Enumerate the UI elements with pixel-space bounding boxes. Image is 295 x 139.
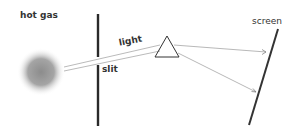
- hot-gas-cloud: [17, 48, 65, 96]
- slit-label: slit: [102, 64, 118, 74]
- prism: [155, 36, 179, 57]
- hot-gas-label: hot gas: [20, 10, 58, 20]
- dispersed-rays: [174, 45, 266, 92]
- spectroscope-diagram: hot gas light slit screen: [0, 0, 295, 139]
- arrowheads: [252, 50, 267, 93]
- screen: [249, 29, 278, 125]
- diagram-drawing: [0, 0, 295, 139]
- screen-label: screen: [252, 16, 282, 26]
